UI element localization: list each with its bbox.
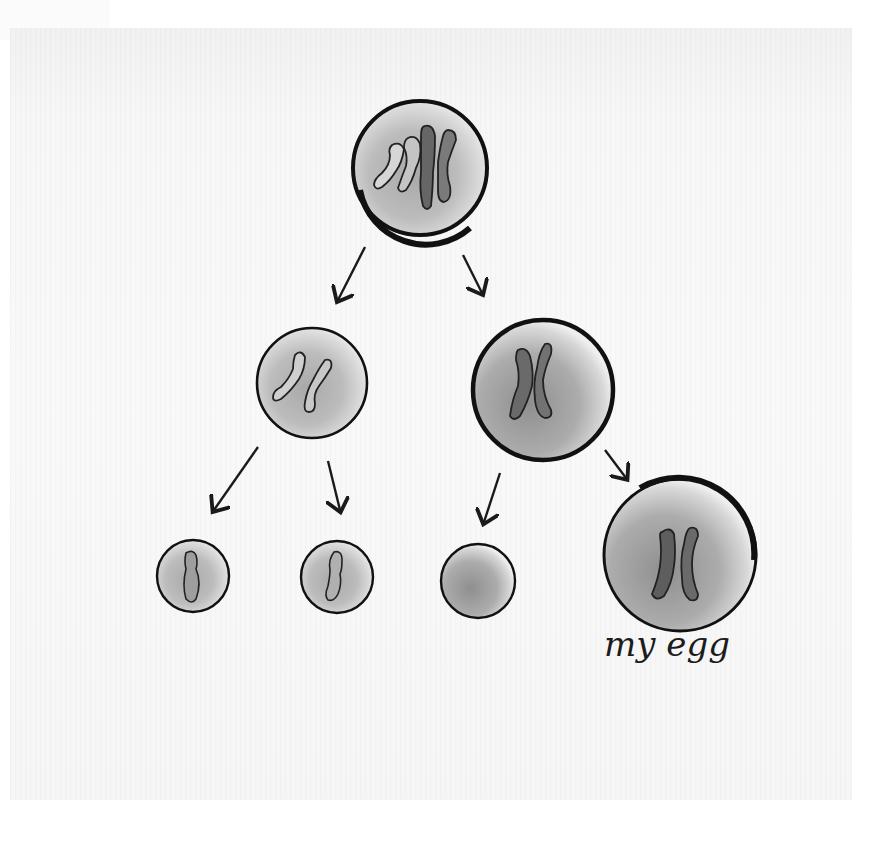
egg-cell bbox=[604, 478, 756, 631]
polar-body-1 bbox=[157, 540, 229, 612]
arrow-icon bbox=[463, 255, 482, 293]
arrow-icon bbox=[328, 461, 340, 510]
meiosis-diagram: my egg bbox=[0, 0, 874, 843]
daughter-cell-left bbox=[257, 328, 367, 438]
arrow-icon bbox=[338, 247, 365, 300]
arrow-icon bbox=[484, 473, 500, 522]
egg-label: my egg bbox=[604, 624, 730, 664]
arrow-icon bbox=[605, 450, 626, 478]
polar-body-2 bbox=[301, 541, 373, 613]
daughter-cell-right bbox=[473, 320, 613, 460]
polar-body-3 bbox=[441, 544, 515, 618]
parent-cell bbox=[353, 101, 487, 245]
arrow-icon bbox=[214, 447, 258, 510]
